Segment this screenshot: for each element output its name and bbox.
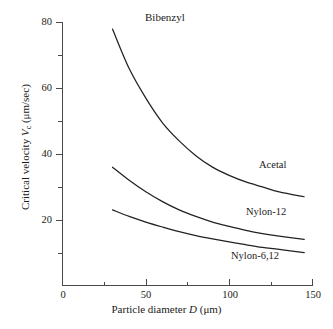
series-label-nylon-6-12: Nylon-6,12 <box>231 251 279 262</box>
chart-title: Bibenzyl <box>145 12 185 23</box>
y-axis-title-prefix: Critical velocity <box>19 136 31 210</box>
series-label-nylon-12: Nylon-12 <box>246 207 286 218</box>
curve-nylon-12 <box>113 167 305 239</box>
x-axis-title: Particle diameter D (μm) <box>0 303 333 315</box>
series-label-acetal: Acetal <box>259 160 286 171</box>
y-tick-label-80: 80 <box>28 17 52 28</box>
y-axis-title: Critical velocity Vc (μm/sec) <box>19 37 33 257</box>
curve-acetal <box>113 29 305 197</box>
x-tick-label-50: 50 <box>133 290 159 301</box>
y-axis-title-subscript: c <box>24 126 33 130</box>
x-axis-title-unit: (μm) <box>197 303 222 315</box>
x-axis-title-prefix: Particle diameter <box>111 303 189 315</box>
x-tick-label-150: 150 <box>299 290 327 301</box>
y-axis-title-unit: (μm/sec) <box>19 84 31 126</box>
chart-figure: Bibenzyl 80 60 40 20 0 50 100 150 Partic… <box>0 0 333 329</box>
x-tick-label-100: 100 <box>216 290 244 301</box>
x-axis-title-var: D <box>189 303 197 315</box>
x-tick-label-0: 0 <box>50 290 76 301</box>
y-axis-title-var: V <box>19 129 31 136</box>
